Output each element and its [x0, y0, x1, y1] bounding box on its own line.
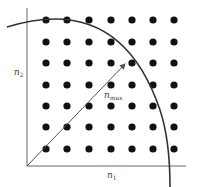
lattice-point: [42, 123, 49, 130]
lattice-point: [170, 145, 177, 152]
x-axis-label: n1: [107, 171, 117, 181]
lattice-point: [170, 16, 177, 23]
lattice-point: [170, 123, 177, 130]
lattice-point: [149, 59, 156, 66]
lattice-point: [85, 81, 92, 88]
y-axis-label-sub: 2: [20, 71, 24, 78]
lattice-point: [63, 38, 70, 45]
lattice-point: [42, 102, 49, 109]
lattice-point: [128, 16, 135, 23]
lattice-point: [85, 145, 92, 152]
lattice-point: [170, 102, 177, 109]
lattice-point: [149, 16, 156, 23]
lattice-point: [128, 123, 135, 130]
lattice-point: [149, 145, 156, 152]
y-axis-label: n2: [14, 68, 24, 78]
lattice-point: [128, 102, 135, 109]
lattice-point: [149, 102, 156, 109]
lattice-point: [85, 38, 92, 45]
lattice-point: [63, 102, 70, 109]
lattice-point: [170, 81, 177, 88]
lattice-point: [85, 59, 92, 66]
lattice-point: [63, 81, 70, 88]
lattice-point: [149, 123, 156, 130]
lattice-point: [107, 16, 114, 23]
lattice-diagram: n2 nmax n1: [0, 0, 212, 187]
lattice-point: [63, 145, 70, 152]
lattice-point: [128, 81, 135, 88]
lattice-point: [107, 81, 114, 88]
x-axis-label-sub: 1: [113, 174, 117, 181]
lattice-point: [85, 123, 92, 130]
lattice-point: [107, 59, 114, 66]
lattice-point: [107, 102, 114, 109]
lattice-point: [42, 38, 49, 45]
lattice-point: [128, 38, 135, 45]
lattice-point: [107, 123, 114, 130]
lattice-point: [85, 16, 92, 23]
vector-label: nmax: [104, 91, 122, 101]
vector-label-sub: max: [110, 94, 123, 101]
lattice-point: [149, 38, 156, 45]
lattice-point: [107, 38, 114, 45]
lattice-points: [42, 16, 177, 152]
lattice-point: [128, 145, 135, 152]
lattice-point: [170, 38, 177, 45]
lattice-point: [107, 145, 114, 152]
lattice-point: [170, 59, 177, 66]
lattice-point: [42, 81, 49, 88]
lattice-point: [63, 59, 70, 66]
lattice-point: [42, 59, 49, 66]
